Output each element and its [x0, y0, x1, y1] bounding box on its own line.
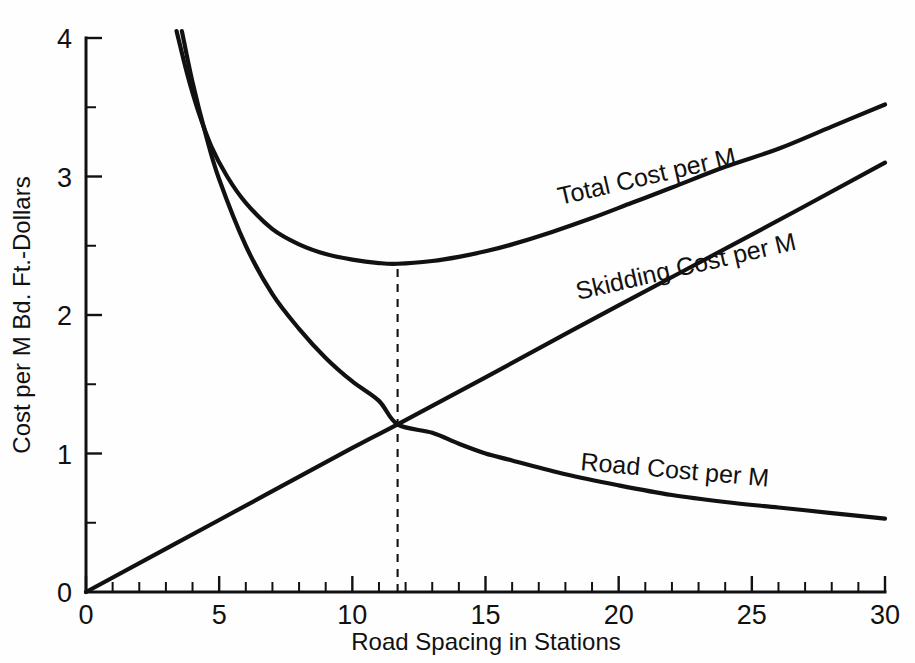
x-tick-label-30: 30	[870, 600, 900, 630]
y-axis-tick-labels: 01234	[57, 24, 72, 608]
y-tick-label-2: 2	[57, 301, 72, 331]
x-tick-label-20: 20	[604, 600, 634, 630]
x-tick-label-10: 10	[337, 600, 367, 630]
y-axis-title: Cost per M Bd. Ft.-Dollars	[8, 176, 35, 453]
series-curves	[86, 31, 885, 592]
chart-plot-area: 051015202530 01234 Total Cost per M Skid…	[0, 0, 915, 663]
x-tick-label-15: 15	[470, 600, 500, 630]
x-axis-ticks	[86, 576, 885, 592]
curve-road-cost	[182, 31, 885, 519]
series-label-skidding-cost: Skidding Cost per M	[573, 227, 799, 305]
x-tick-label-25: 25	[737, 600, 767, 630]
curve-total-cost	[177, 31, 885, 264]
series-inline-labels: Total Cost per M Skidding Cost per M Roa…	[555, 142, 799, 492]
series-label-total-cost: Total Cost per M	[555, 142, 739, 210]
curve-skidding-cost	[86, 163, 885, 592]
axes-group	[86, 38, 885, 592]
y-tick-label-0: 0	[57, 578, 72, 608]
y-tick-label-1: 1	[57, 440, 72, 470]
x-axis-title: Road Spacing in Stations	[351, 628, 621, 655]
y-tick-label-4: 4	[57, 24, 72, 54]
x-tick-label-0: 0	[78, 600, 93, 630]
y-axis-ticks	[86, 38, 102, 523]
y-tick-label-3: 3	[57, 163, 72, 193]
x-tick-label-5: 5	[212, 600, 227, 630]
chart-figure: 051015202530 01234 Total Cost per M Skid…	[0, 0, 915, 663]
x-axis-tick-labels: 051015202530	[78, 600, 900, 630]
